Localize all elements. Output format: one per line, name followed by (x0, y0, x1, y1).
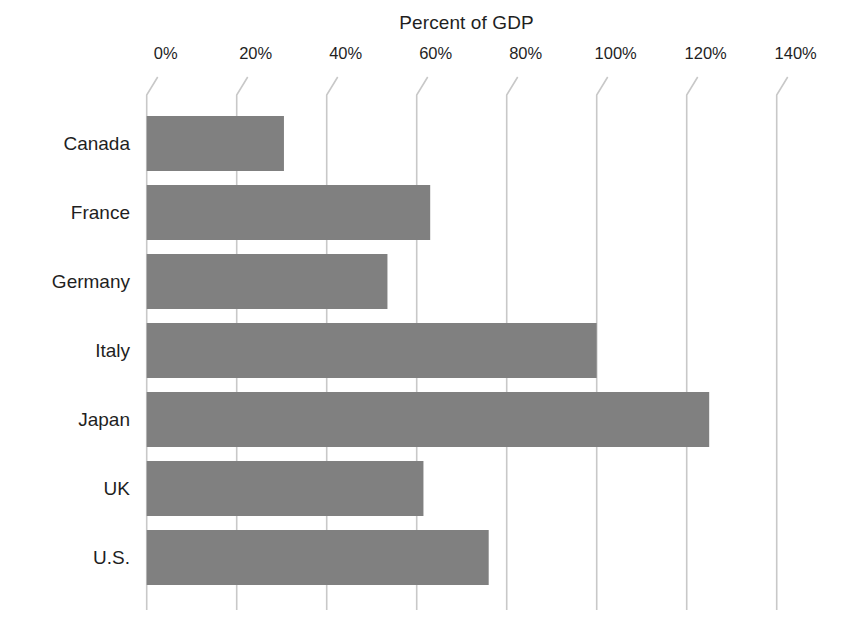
bars-group (147, 116, 710, 585)
bar-germany[interactable] (147, 254, 388, 309)
bar-chart: Percent of GDP 0%20%40%60%80%100%120%140… (0, 0, 843, 634)
bar-italy[interactable] (147, 323, 597, 378)
gridline-140pct (777, 77, 788, 610)
bar-france[interactable] (147, 185, 431, 240)
bar-canada[interactable] (147, 116, 284, 171)
bar-u-s[interactable] (147, 530, 489, 585)
gridline-100pct (597, 77, 608, 610)
gridline-120pct (687, 77, 698, 610)
plot-area (0, 0, 843, 634)
bar-uk[interactable] (147, 461, 424, 516)
bar-japan[interactable] (147, 392, 710, 447)
